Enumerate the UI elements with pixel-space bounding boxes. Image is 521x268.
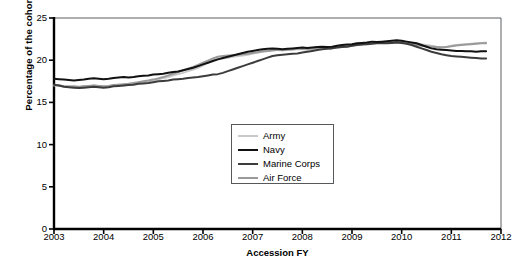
legend-swatch-icon [238, 163, 258, 165]
legend-label: Marine Corps [263, 159, 320, 169]
legend-item[interactable]: Air Force [238, 171, 302, 185]
legend-item[interactable]: Army [238, 129, 285, 143]
chart-legend: ArmyNavyMarine CorpsAir Force [231, 124, 334, 184]
legend-swatch-icon [238, 177, 258, 179]
legend-item[interactable]: Marine Corps [238, 157, 320, 171]
legend-label: Navy [263, 145, 285, 155]
legend-label: Air Force [263, 173, 302, 183]
legend-swatch-icon [238, 135, 258, 137]
legend-item[interactable]: Navy [238, 143, 285, 157]
legend-label: Army [263, 131, 285, 141]
chart-figure: Percentage of the cohort Accession FY 05… [0, 0, 521, 268]
legend-swatch-icon [238, 149, 258, 151]
